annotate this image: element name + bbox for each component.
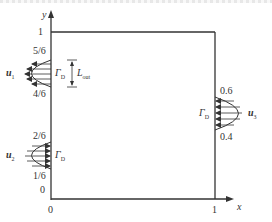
y-axis-label: y — [42, 10, 46, 20]
y-origin-tick: 0 — [40, 185, 45, 195]
x-max-tick: 1 — [212, 205, 217, 215]
y-max-tick: 1 — [38, 27, 43, 37]
x-axis — [51, 196, 234, 202]
u2-lower-tick: 1/6 — [33, 171, 46, 181]
u3-lower-tick: 0.4 — [220, 132, 233, 142]
u2-upper-tick: 2/6 — [33, 131, 46, 141]
u2-label: u2 — [6, 150, 15, 162]
inlet-u1-profile — [25, 60, 51, 87]
y-axis — [48, 10, 54, 200]
x-axis-label: x — [237, 202, 241, 212]
length-out-label: Lout — [77, 68, 90, 80]
u1-upper-tick: 5/6 — [33, 46, 46, 56]
x-origin-tick: 0 — [48, 205, 53, 215]
u1-boundary-label: ΓD — [55, 68, 65, 80]
u3-boundary-label: ΓD — [199, 108, 209, 120]
domain-boundary — [51, 32, 215, 199]
u1-label: u1 — [6, 68, 15, 80]
u2-boundary-label: ΓD — [55, 150, 65, 162]
u3-label: u3 — [248, 108, 257, 120]
inlet-u2-profile — [25, 142, 51, 169]
u1-lower-tick: 4/6 — [33, 89, 46, 99]
length-dimension — [67, 60, 77, 87]
outlet-u3-profile — [215, 97, 242, 130]
u3-upper-tick: 0.6 — [220, 86, 233, 96]
